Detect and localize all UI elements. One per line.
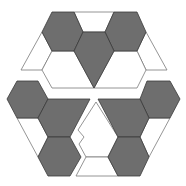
hexagon-dissection-diagram: [0, 0, 186, 186]
top-piece: [21, 12, 167, 88]
bottom-right-piece: [76, 81, 180, 176]
bottom-left-piece: [7, 81, 90, 176]
